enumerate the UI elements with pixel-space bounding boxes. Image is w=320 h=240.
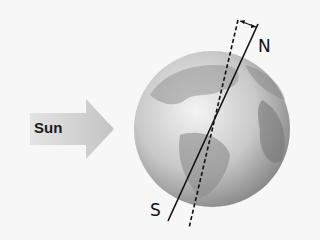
- north-label: N: [258, 36, 271, 56]
- sun-label: Sun: [34, 119, 62, 136]
- south-label: S: [150, 200, 161, 220]
- tilt-angle-arrow: [240, 20, 256, 28]
